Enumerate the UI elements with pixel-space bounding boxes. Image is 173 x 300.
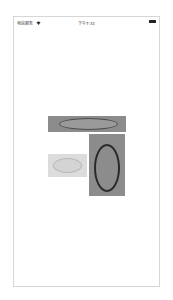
vertical-ellipse: [94, 144, 120, 192]
phone-screen: 电信服务 下午7:31: [13, 16, 160, 287]
wide-rect-shape[interactable]: [48, 116, 126, 132]
status-time: 下午7:31: [14, 20, 159, 26]
status-bar: 电信服务 下午7:31: [14, 17, 159, 27]
faded-ellipse: [53, 158, 82, 173]
horizontal-ellipse: [59, 118, 118, 130]
battery-icon: [149, 20, 156, 23]
faded-rect-shape[interactable]: [48, 154, 87, 177]
tall-rect-shape[interactable]: [89, 134, 125, 196]
